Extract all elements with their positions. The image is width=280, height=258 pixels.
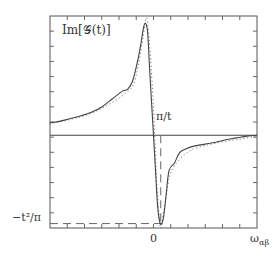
plot-frame [50, 16, 257, 228]
annotation-pi-over-t: π/t [156, 110, 172, 123]
annotation-minus-t2-over-pi: −t²/π [12, 211, 41, 224]
x-axis-label: ωαβ [250, 232, 269, 247]
series-approximation-dotted [50, 18, 257, 228]
series-exact-solid [50, 23, 257, 224]
chart-title: Im[𝒢(t)] [62, 23, 111, 37]
axis-ticks [50, 16, 257, 228]
x-tick-label-0: 0 [150, 232, 157, 245]
chart: Im[𝒢(t)] π/t −t²/π 0 ωαβ [0, 0, 280, 258]
